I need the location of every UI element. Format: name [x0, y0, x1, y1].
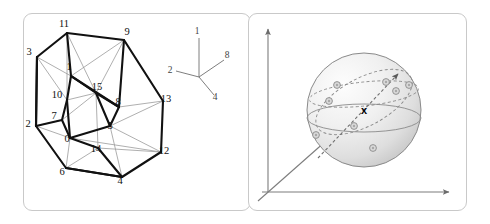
figure-root: 1284 1193110152781305141264: [0, 0, 490, 224]
sphere-panel: [248, 13, 467, 211]
tesseract-panel: [23, 13, 251, 211]
